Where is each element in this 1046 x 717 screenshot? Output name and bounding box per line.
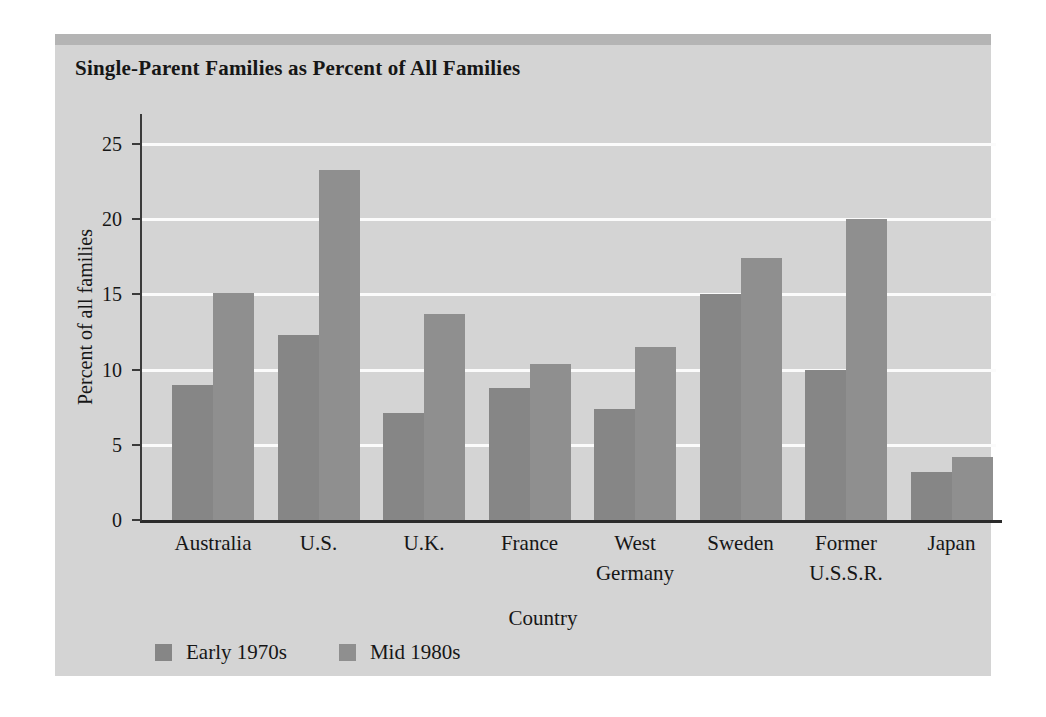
bar-0: [278, 335, 319, 520]
bar-group: [805, 114, 887, 520]
bar-0: [911, 472, 952, 520]
y-axis-tick-label: 15: [102, 283, 122, 306]
bar-1: [741, 258, 782, 520]
legend-label: Mid 1980s: [370, 640, 460, 665]
legend-swatch-icon: [339, 644, 356, 661]
bar-0: [489, 388, 530, 520]
bar-1: [952, 457, 993, 520]
y-axis-tick: [132, 293, 142, 295]
bar-0: [172, 385, 213, 520]
legend-label: Early 1970s: [186, 640, 287, 665]
bar-1: [846, 219, 887, 520]
y-axis-tick-label: 20: [102, 208, 122, 231]
bar-0: [700, 294, 741, 520]
y-axis-tick: [132, 369, 142, 371]
bar-1: [424, 314, 465, 520]
bar-1: [213, 293, 254, 520]
page-root: Single-Parent Families as Percent of All…: [0, 0, 1046, 717]
bar-group: [594, 114, 676, 520]
panel-top-strip: [55, 34, 991, 45]
bar-group: [278, 114, 360, 520]
legend-item: Early 1970s: [155, 640, 287, 665]
y-axis-tick-label: 0: [112, 509, 122, 532]
bar-0: [383, 413, 424, 520]
bar-group: [383, 114, 465, 520]
bar-1: [635, 347, 676, 520]
y-axis-tick-label: 10: [102, 358, 122, 381]
y-axis-tick: [132, 519, 142, 521]
bar-1: [530, 364, 571, 520]
y-axis-tick-label: 25: [102, 133, 122, 156]
bar-group: [911, 114, 993, 520]
bar-0: [805, 370, 846, 520]
figure-panel: Single-Parent Families as Percent of All…: [55, 34, 991, 676]
x-axis-tick-label: Japan: [861, 528, 1043, 558]
y-axis-tick: [132, 143, 142, 145]
y-axis-title: Percent of all families: [70, 114, 100, 520]
chart-legend: Early 1970sMid 1980s: [155, 640, 460, 665]
plot-surface: [142, 114, 996, 520]
plot-region: Percent of all families 0510152025 Austr…: [140, 114, 946, 520]
bar-group: [489, 114, 571, 520]
y-axis-tick: [132, 444, 142, 446]
x-axis-line: [140, 520, 1002, 523]
legend-item: Mid 1980s: [339, 640, 460, 665]
y-axis-tick: [132, 218, 142, 220]
bar-1: [319, 170, 360, 520]
bar-group: [172, 114, 254, 520]
y-axis-tick-label: 5: [112, 433, 122, 456]
bar-0: [594, 409, 635, 520]
legend-swatch-icon: [155, 644, 172, 661]
chart-title: Single-Parent Families as Percent of All…: [75, 56, 520, 81]
x-axis-title: Country: [140, 606, 946, 631]
bar-group: [700, 114, 782, 520]
